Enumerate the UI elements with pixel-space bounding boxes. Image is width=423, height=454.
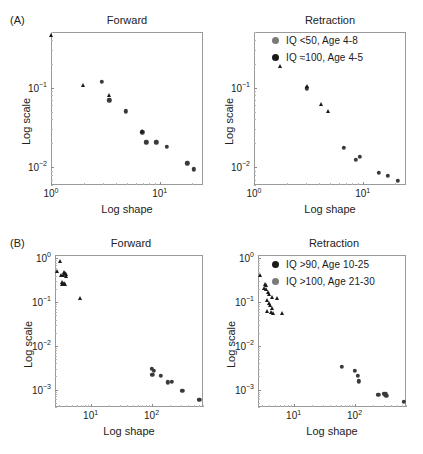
y-major-tick (258, 346, 261, 347)
legend-marker-black-circle (272, 261, 279, 268)
y-minor-tick (254, 100, 256, 101)
y-minor-tick (254, 95, 256, 96)
y-major-tick (55, 302, 58, 303)
y-minor-tick (51, 50, 53, 51)
y-minor-tick (254, 171, 256, 172)
y-minor-tick (258, 333, 260, 334)
legend-marker-gray-circle (272, 37, 279, 44)
y-minor-tick (55, 399, 57, 400)
x-axis-label-b-forward: Log shape (55, 425, 203, 437)
panel-label-b: (B) (10, 237, 25, 249)
y-minor-tick (258, 265, 260, 266)
legend-label-iq-under-50: IQ <50, Age 4-8 (286, 35, 358, 46)
y-minor-tick (258, 350, 260, 351)
y-minor-tick (55, 263, 57, 264)
y-minor-tick (55, 276, 57, 277)
x-minor-tick (138, 405, 139, 407)
x-minor-tick (194, 405, 195, 407)
legend-label-iq-over-90: IQ >90, Age 10-25 (286, 259, 369, 270)
legend-marker-gray-circle (272, 278, 279, 285)
x-axis-label-b-retraction: Log shape (258, 425, 406, 437)
y-major-tick (258, 390, 261, 391)
y-minor-tick (55, 281, 57, 282)
x-minor-tick (330, 183, 331, 185)
x-major-tick (91, 404, 92, 407)
y-tick-label: 10−3 (23, 384, 51, 395)
data-point (107, 93, 111, 97)
x-minor-tick (280, 405, 281, 407)
data-point (275, 296, 279, 300)
x-minor-tick (120, 405, 121, 407)
x-major-tick (160, 182, 161, 185)
y-minor-tick (258, 315, 260, 316)
plot-area-a-forward[interactable] (51, 32, 203, 185)
data-point (64, 274, 68, 278)
x-minor-tick (275, 405, 276, 407)
y-minor-tick (55, 396, 57, 397)
data-point (271, 311, 275, 315)
x-minor-tick (352, 183, 353, 185)
legend-marker-black-circle (272, 54, 279, 61)
data-point (55, 269, 59, 273)
x-tick-label: 101 (83, 410, 98, 421)
x-tick-label: 102 (347, 410, 362, 421)
x-minor-tick (66, 405, 67, 407)
y-minor-tick (51, 180, 53, 181)
x-major-tick (152, 404, 153, 407)
y-minor-tick (55, 289, 57, 290)
x-major-tick (294, 404, 295, 407)
x-minor-tick (188, 405, 189, 407)
y-tick-label: 10−1 (222, 82, 250, 93)
x-minor-tick (406, 405, 407, 407)
data-point (49, 33, 53, 37)
data-point (280, 311, 284, 315)
x-minor-tick (391, 405, 392, 407)
x-tick-label: 102 (144, 410, 159, 421)
y-minor-tick (258, 281, 260, 282)
x-minor-tick (149, 405, 150, 407)
y-tick-label: 10−2 (222, 162, 250, 173)
x-minor-tick (85, 405, 86, 407)
x-minor-tick (77, 405, 78, 407)
x-major-tick (51, 182, 52, 185)
x-minor-tick (349, 405, 350, 407)
figure-root: (A) Forward Log shape Log scale 10010110… (0, 0, 423, 454)
y-minor-tick (258, 369, 260, 370)
y-minor-tick (55, 369, 57, 370)
x-minor-tick (127, 405, 128, 407)
x-tick-label: 100 (246, 188, 261, 199)
x-minor-tick (170, 405, 171, 407)
x-minor-tick (143, 183, 144, 185)
x-minor-tick (288, 405, 289, 407)
y-minor-tick (51, 91, 53, 92)
y-minor-tick (55, 359, 57, 360)
y-minor-tick (55, 333, 57, 334)
y-tick-label: 100 (226, 253, 254, 264)
x-minor-tick (345, 405, 346, 407)
y-tick-label: 10−1 (226, 297, 254, 308)
y-minor-tick (258, 306, 260, 307)
x-minor-tick (116, 183, 117, 185)
panel-title-b-forward: Forward (55, 237, 207, 249)
data-point (81, 83, 85, 87)
y-minor-tick (258, 353, 260, 354)
y-major-tick (258, 258, 261, 259)
y-minor-tick (258, 356, 260, 357)
y-minor-tick (51, 105, 53, 106)
x-minor-tick (59, 405, 60, 407)
legend-item-iq-over-90: IQ >90, Age 10-25 (272, 259, 369, 270)
y-minor-tick (254, 180, 256, 181)
plot-area-b-forward[interactable] (55, 255, 203, 407)
x-major-tick (254, 182, 255, 185)
x-minor-tick (192, 183, 193, 185)
y-minor-tick (51, 40, 53, 41)
x-minor-tick (402, 405, 403, 407)
y-minor-tick (258, 407, 260, 408)
x-tick-label: 101 (152, 188, 167, 199)
x-major-tick (355, 404, 356, 407)
y-minor-tick (51, 119, 53, 120)
x-minor-tick (103, 183, 104, 185)
y-minor-tick (258, 309, 260, 310)
y-minor-tick (254, 112, 256, 113)
y-minor-tick (254, 175, 256, 176)
